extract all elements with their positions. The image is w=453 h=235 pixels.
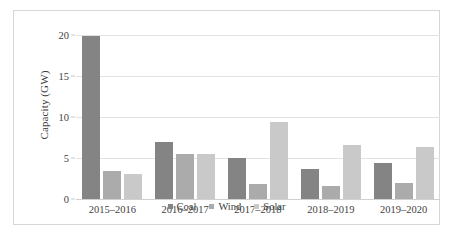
bar-wind[interactable] [103,171,121,199]
legend-label: Solar [263,201,285,212]
y-tick-mark [71,199,75,200]
bar-group-bars [76,35,149,199]
plot-area: 051015202015–20162016–20172017–20182018–… [76,35,440,199]
bar-wind[interactable] [249,184,267,199]
y-tick-label: 20 [59,30,70,41]
bar-group: 2015–2016 [76,35,149,199]
y-tick-label: 10 [59,112,70,123]
bar-solar[interactable] [270,122,288,199]
legend-item-coal[interactable]: Coal [168,201,197,212]
legend-swatch-icon [209,204,214,209]
bar-coal[interactable] [228,158,246,199]
bar-group: 2018–2019 [294,35,367,199]
bar-solar[interactable] [124,174,142,199]
bar-coal[interactable] [301,169,319,199]
y-tick-mark [71,158,75,159]
y-tick-label: 5 [64,153,69,164]
bar-group-bars [367,35,440,199]
legend-label: Wind [218,201,241,212]
bar-group-bars [222,35,295,199]
bar-coal[interactable] [82,36,100,199]
figure-frame: Capacity (GW) 051015202015–20162016–2017… [13,10,440,225]
legend-swatch-icon [254,204,259,209]
chart-legend: CoalWindSolar [0,201,453,212]
bar-group: 2019–2020 [367,35,440,199]
legend-label: Coal [177,201,197,212]
bar-wind[interactable] [322,186,340,199]
bar-solar[interactable] [416,147,434,199]
bar-group: 2016–2017 [149,35,222,199]
y-axis-title: Capacity (GW) [38,45,50,165]
legend-item-wind[interactable]: Wind [209,201,241,212]
bar-wind[interactable] [176,154,194,199]
bar-group: 2017–2018 [222,35,295,199]
bar-solar[interactable] [343,145,361,199]
y-tick-label: 15 [59,71,70,82]
bar-coal[interactable] [155,142,173,199]
y-tick-mark [71,76,75,77]
bar-group-bars [294,35,367,199]
legend-item-solar[interactable]: Solar [254,201,285,212]
bar-solar[interactable] [197,154,215,199]
figure-canvas: Capacity (GW) 051015202015–20162016–2017… [0,0,453,235]
y-tick-mark [71,117,75,118]
y-gridline [76,199,440,200]
y-tick-mark [71,35,75,36]
bar-group-bars [149,35,222,199]
bar-coal[interactable] [374,163,392,199]
legend-swatch-icon [168,204,173,209]
bar-wind[interactable] [395,183,413,199]
